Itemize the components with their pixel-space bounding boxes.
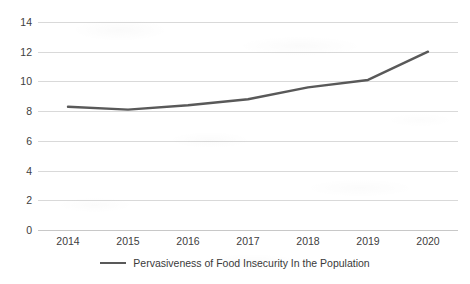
legend-swatch-series-0 [100,262,126,264]
series-line-pervasiveness-of-food-insecurity [68,52,428,110]
y-tick-label-8: 8 [6,106,32,117]
plot-area [38,22,458,230]
x-tick-label-2017: 2017 [218,236,278,250]
x-tick-label-2018: 2018 [278,236,338,250]
y-tick-label-12: 12 [6,47,32,58]
y-tick-label-10: 10 [6,76,32,87]
x-tick-label-2014: 2014 [38,236,98,250]
y-tick-label-0: 0 [6,225,32,236]
chart-legend: Pervasiveness of Food Insecurity In the … [0,258,470,269]
x-tick-label-2019: 2019 [338,236,398,250]
gridline-0 [38,230,458,231]
x-tick-label-2016: 2016 [158,236,218,250]
y-tick-label-4: 4 [6,166,32,177]
line-chart: 14121086420 2014201520162017201820192020… [0,0,470,284]
y-axis: 14121086420 [0,22,32,230]
x-axis: 2014201520162017201820192020 [38,236,458,250]
series-layer [38,22,458,230]
y-tick-label-14: 14 [6,17,32,28]
y-tick-label-6: 6 [6,136,32,147]
y-tick-label-2: 2 [6,195,32,206]
legend-label-series-0: Pervasiveness of Food Insecurity In the … [133,258,369,269]
x-tick-label-2020: 2020 [398,236,458,250]
x-tick-label-2015: 2015 [98,236,158,250]
